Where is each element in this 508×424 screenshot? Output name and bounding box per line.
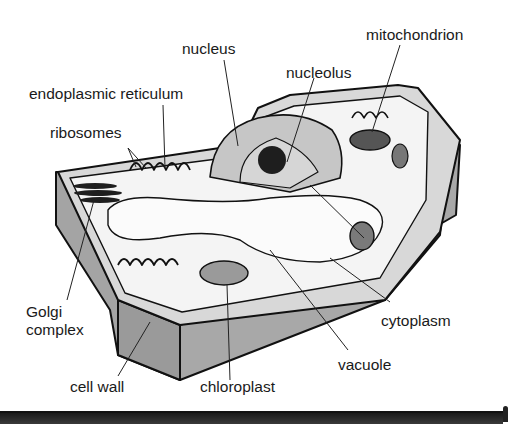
label-cytoplasm: cytoplasm: [381, 312, 451, 329]
label-chloroplast: chloroplast: [200, 378, 275, 395]
label-cell-wall: cell wall: [70, 378, 124, 395]
label-vacuole: vacuole: [338, 356, 391, 373]
label-mitochondrion: mitochondrion: [366, 26, 463, 43]
label-endoplasmic-reticulum: endoplasmic reticulum: [29, 85, 183, 102]
label-golgi-line1: Golgi: [26, 303, 62, 320]
mitochondrion-2: [392, 144, 408, 168]
chloroplast: [200, 261, 248, 285]
label-golgi-line2: complex: [26, 321, 84, 338]
bottom-bar-corner: [503, 406, 508, 422]
golgi-complex: [73, 183, 122, 203]
label-ribosomes: ribosomes: [50, 124, 122, 141]
label-nucleolus: nucleolus: [286, 64, 352, 81]
label-nucleus: nucleus: [182, 40, 235, 57]
mitochondrion: [350, 130, 390, 150]
bottom-bar: [0, 411, 503, 424]
nucleolus: [258, 146, 286, 174]
